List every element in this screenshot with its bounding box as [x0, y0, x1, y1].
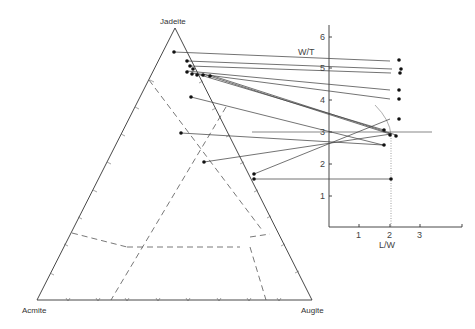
y-tick-2: 2	[320, 159, 325, 169]
triangle-edge-ticks	[50, 80, 299, 301]
y-axis-label: W/T	[298, 47, 315, 57]
x-tick-2: 2	[387, 230, 392, 240]
graph-axes	[329, 25, 462, 227]
augite-label: Augite	[301, 306, 324, 315]
ternary-data-points	[172, 50, 256, 181]
y-tick-5: 5	[320, 63, 325, 73]
graph-data-points	[382, 58, 403, 181]
x-tick-3: 3	[417, 230, 422, 240]
y-tick-4: 4	[320, 95, 325, 105]
connection-lines	[174, 52, 396, 179]
y-tick-6: 6	[320, 32, 325, 42]
ternary-and-shape-diagram: Jadeite Acmite Augite 1 2 3 4 5 6 1 2 3 …	[0, 0, 475, 329]
x-axis-label: L/W	[379, 240, 396, 250]
jadeite-label: Jadeite	[160, 17, 186, 26]
x-tick-1: 1	[356, 230, 361, 240]
y-tick-1: 1	[320, 191, 325, 201]
field-boundaries	[72, 80, 270, 300]
acmite-label: Acmite	[22, 306, 47, 315]
